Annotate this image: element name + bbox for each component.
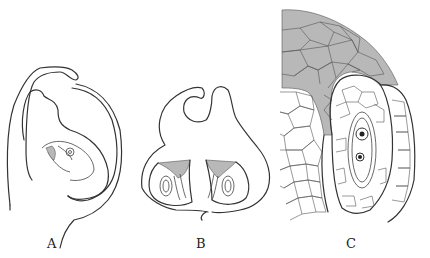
panel-b: B (140, 0, 290, 258)
nucellus-cellular-detail-drawing (280, 0, 430, 258)
panel-label-a: A (47, 236, 56, 251)
panel-label-b: B (196, 236, 206, 251)
panel-a: A (0, 0, 140, 258)
ovary-cross-section-drawing (140, 0, 290, 258)
panel-label-c: C (346, 236, 356, 251)
panel-c: C (280, 0, 430, 258)
ovule-longitudinal-section-drawing (0, 0, 140, 258)
